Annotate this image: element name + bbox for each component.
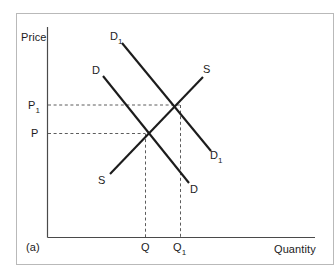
y-tick-label-p: P [31,127,38,139]
y-axis-title: Price [21,31,47,43]
y-tick-label-p-text: P [31,127,38,139]
curve-label-d-bottom: D [190,183,198,195]
curve-label-d1-top-subscript: 1 [118,37,122,46]
x-tick-label-q1-subscript: 1 [182,248,186,257]
chart-drawing-area [0,0,336,266]
y-tick-label-p1: P1 [28,99,40,111]
curve-label-d-top-text: D [92,64,100,76]
curve-label-s-bottom: S [98,174,105,186]
curve-label-d1-bottom-text: D [210,149,218,161]
curve-label-d1-top-text: D [110,30,118,42]
x-axis-title: Quantity [274,243,316,255]
curve-label-s-top-text: S [203,63,210,75]
curve-label-d-bottom-text: D [190,183,198,195]
panel-tag: (a) [26,241,40,253]
demand-curve-d1 [122,43,211,151]
curve-label-d1-top: D1 [110,30,123,42]
x-tick-label-q: Q [141,241,150,253]
curve-label-d1-bottom-subscript: 1 [218,156,222,165]
curve-label-s-top: S [203,63,210,75]
economics-supply-demand-figure: Price Quantity P1 P Q Q1 D1 D S D1 S D (… [0,0,336,266]
curve-label-d-top: D [92,64,100,76]
x-tick-label-q1: Q1 [173,241,186,253]
curve-label-d1-bottom: D1 [210,149,223,161]
x-tick-label-q1-text: Q [173,241,182,253]
x-tick-label-q-text: Q [141,241,150,253]
y-tick-label-p1-subscript: 1 [35,106,39,115]
curve-label-s-bottom-text: S [98,174,105,186]
